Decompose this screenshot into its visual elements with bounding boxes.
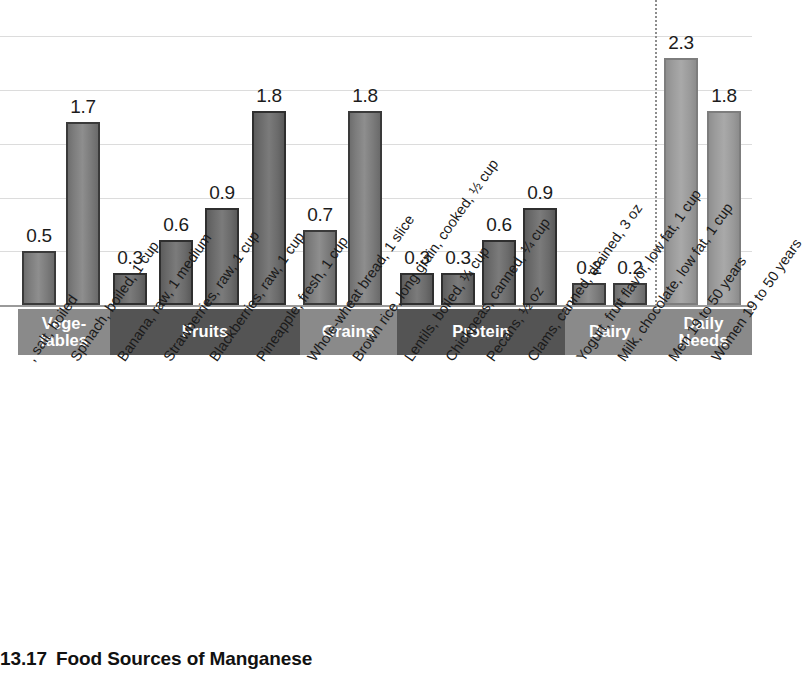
figure-title: Food Sources of Manganese [56,648,312,669]
bar [22,251,56,305]
bar-value-label: 1.8 [242,85,296,107]
bar-value-label: 0.6 [149,214,203,236]
bar-value-label: 0.5 [12,225,66,247]
bar-value-label: 0.6 [472,214,526,236]
x-axis-tick-labels: , salt, boiledSpinach, boiled, 1 cupBana… [0,355,752,600]
bar-value-label: 0.9 [513,182,567,204]
bar-value-label: 0.7 [293,204,347,226]
figure-number: 13.17 [0,648,47,669]
bar-value-label: 1.8 [697,85,751,107]
bar-value-label: 1.8 [338,85,392,107]
bar [66,122,100,305]
gridline-2.5 [0,36,752,37]
bar-value-label: 2.3 [654,32,708,54]
bar-value-label: 1.7 [56,96,110,118]
figure-caption: 13.17Food Sources of Manganese [0,648,752,670]
bar-value-label: 0.9 [195,182,249,204]
